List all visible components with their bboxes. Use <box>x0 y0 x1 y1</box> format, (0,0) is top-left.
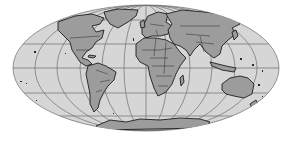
world-map <box>0 0 291 141</box>
britain <box>140 20 145 28</box>
caribbean <box>88 55 96 58</box>
